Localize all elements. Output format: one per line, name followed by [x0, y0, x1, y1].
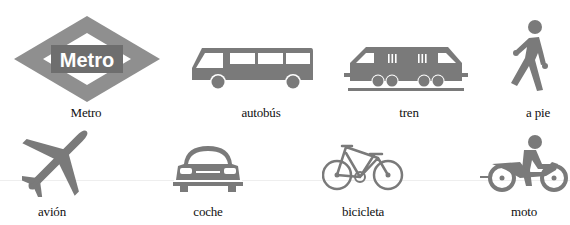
label-autobus: autobús	[241, 106, 280, 120]
motorcycle-icon	[480, 134, 570, 194]
label-a-pie: a pie	[526, 106, 550, 120]
label-bicicleta: bicicleta	[342, 205, 384, 219]
label-moto: moto	[511, 205, 537, 219]
label-tren: tren	[399, 106, 418, 120]
label-coche: coche	[193, 205, 222, 219]
bus-icon	[188, 46, 313, 91]
metro-logo-icon: Metro	[14, 16, 160, 102]
car-icon	[172, 142, 244, 192]
label-avion: avión	[38, 205, 66, 219]
walking-person-icon	[509, 20, 559, 92]
airplane-icon	[22, 125, 92, 197]
train-icon	[344, 45, 468, 93]
svg-text:Metro: Metro	[60, 49, 114, 71]
label-metro: Metro	[71, 106, 102, 120]
bicycle-icon	[322, 143, 404, 193]
